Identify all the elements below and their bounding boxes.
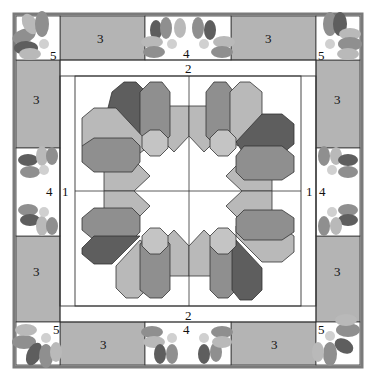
label-3-bottom-right: 3: [271, 337, 278, 352]
label-5-bottom-left: 5: [53, 322, 60, 337]
label-4-left: 4: [46, 184, 53, 199]
label-5-top-right: 5: [318, 48, 325, 63]
label-5-bottom-right: 5: [318, 322, 325, 337]
label-3-top-right: 3: [265, 31, 272, 46]
label-5-top-left: 5: [50, 48, 57, 63]
label-sashing-bottom: 2: [185, 308, 192, 323]
label-center-left: 1: [62, 184, 69, 199]
label-3-bottom-left: 3: [100, 337, 107, 352]
label-sashing-top: 2: [185, 61, 192, 76]
label-3-right-bottom: 3: [334, 264, 341, 279]
block-3-right-bottom: [316, 236, 360, 322]
label-3-left-top: 3: [33, 92, 40, 107]
label-center-right: 1: [306, 184, 313, 199]
label-4-top: 4: [183, 46, 190, 61]
block-3-left-bottom: [16, 236, 60, 322]
label-3-right-top: 3: [334, 92, 341, 107]
block-3-top-right: [231, 16, 316, 60]
quilt-diagram: 1 1 2 2 3 3 3 3 3 3 3 3 4 4 4 4 5 5 5 5: [0, 0, 373, 381]
label-3-left-bottom: 3: [33, 264, 40, 279]
label-4-bottom: 4: [183, 322, 190, 337]
label-3-top-left: 3: [97, 31, 104, 46]
label-4-right: 4: [319, 184, 326, 199]
